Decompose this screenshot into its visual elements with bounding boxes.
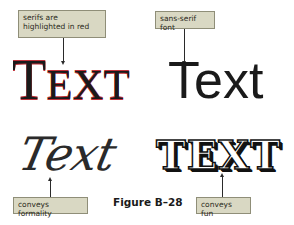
- fun-callout: conveys fun: [196, 197, 251, 214]
- script-callout-text: conveys formality: [18, 200, 52, 218]
- script-sample-text: Text: [14, 126, 121, 182]
- sans-sample-text: Text: [168, 52, 263, 108]
- serif-sample-rest: EXT: [46, 61, 130, 108]
- sans-callout-text: sans-serif font: [160, 14, 196, 32]
- serif-callout: serifs are highlighted in red: [18, 10, 106, 38]
- serif-callout-text: serifs are highlighted in red: [23, 13, 89, 31]
- sans-callout: sans-serif font: [155, 11, 215, 29]
- decorative-sample-text: TEXT: [156, 130, 281, 180]
- fun-callout-text: conveys fun: [201, 200, 232, 218]
- serif-sample-text: TEXT: [12, 52, 130, 113]
- figure-label: Figure B–28: [113, 196, 183, 208]
- script-callout: conveys formality: [13, 197, 88, 214]
- script-callout-arrow: [50, 180, 51, 197]
- serif-sample-initial: T: [12, 49, 46, 111]
- fun-callout-arrow: [222, 176, 223, 197]
